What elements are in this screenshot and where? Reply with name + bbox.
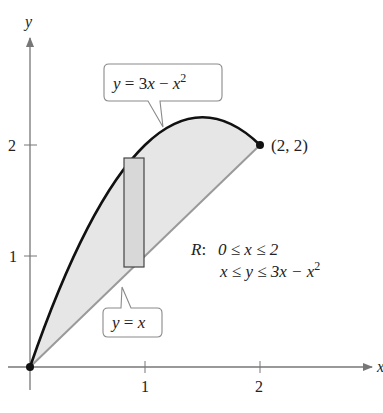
x-axis-label: x [376, 358, 383, 375]
svg-text:y = x: y = x [110, 313, 146, 332]
region-diagram: 1 2 1 2 y x (2, 2) y = 3x − x2 y = x R: … [0, 0, 383, 413]
point-2-2 [256, 141, 264, 149]
y-tick-label-2: 2 [8, 137, 16, 154]
y-axis-label: y [23, 13, 33, 31]
origin-point [26, 363, 34, 371]
region-condition-y: x ≤ y ≤ 3x − x2 [219, 259, 320, 281]
x-tick-label-1: 1 [141, 378, 149, 395]
callout-lower-line: y = x [103, 287, 162, 337]
point-2-2-label: (2, 2) [271, 136, 308, 155]
region-description: R: 0 ≤ x ≤ 2 x ≤ y ≤ 3x − x2 [190, 240, 320, 281]
svg-text:R:: R: [190, 240, 206, 259]
svg-text:y = 3x − x2: y = 3x − x2 [111, 71, 186, 93]
region-condition-x: 0 ≤ x ≤ 2 [218, 240, 279, 259]
y-tick-label-1: 1 [9, 248, 17, 265]
x-tick-label-2: 2 [255, 378, 263, 395]
representative-rectangle [124, 158, 144, 267]
